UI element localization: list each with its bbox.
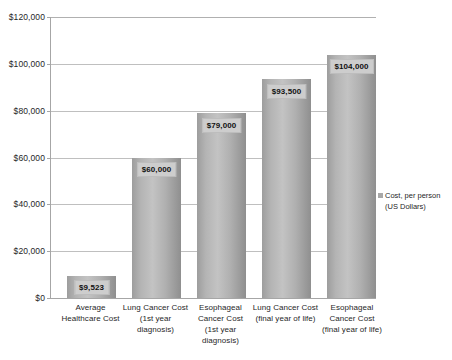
bar-esophageal-cancer-final-year[interactable]: [327, 55, 376, 299]
x-label-line: Lung Cancer Cost: [248, 302, 323, 313]
y-axis-label-100000: $100,000: [9, 59, 45, 69]
bar-esophageal-cancer-first-year[interactable]: [197, 113, 246, 298]
x-label-line: Cancer Cost: [313, 313, 391, 324]
y-axis-label-120000: $120,000: [9, 12, 45, 22]
x-label-line: (1st year: [187, 324, 254, 335]
plot-area: $120,000 $100,000 $80,000 $60,000 $40,00…: [50, 17, 376, 299]
legend-label-line1: Cost, per person: [385, 191, 440, 200]
x-label-line: (final year of life): [313, 324, 391, 335]
x-axis-label-lung-cancer-final-year: Lung Cancer Cost (final year of life): [248, 302, 323, 324]
tick-60000: [47, 158, 51, 159]
bar-lung-cancer-first-year[interactable]: [132, 158, 181, 299]
bar-slot-esophageal-cancer-final-year[interactable]: $104,000: [327, 17, 376, 298]
bar-slot-average-healthcare-cost[interactable]: $9,523: [67, 17, 116, 298]
x-label-line: diagnosis): [118, 324, 193, 335]
x-label-line: (final year of life): [248, 313, 323, 324]
bar-slot-lung-cancer-first-year[interactable]: $60,000: [132, 17, 181, 298]
bar-label-esophageal-cancer-final-year: $104,000: [329, 59, 373, 74]
x-label-line: Cancer Cost: [187, 313, 254, 324]
bar-slot-esophageal-cancer-first-year[interactable]: $79,000: [197, 17, 246, 298]
bar-label-average-healthcare-cost: $9,523: [74, 280, 109, 295]
bar-label-lung-cancer-final-year: $93,500: [267, 84, 307, 99]
legend-label-line2: (US Dollars): [385, 202, 452, 212]
y-axis-label-60000: $60,000: [14, 153, 45, 163]
x-label-line: Lung Cancer Cost: [118, 302, 193, 313]
legend-swatch-icon: [378, 193, 383, 198]
tick-40000: [47, 204, 51, 205]
y-axis-label-20000: $20,000: [14, 246, 45, 256]
tick-120000: [47, 17, 51, 18]
x-label-line: Healthcare Cost: [56, 313, 125, 324]
tick-100000: [47, 64, 51, 65]
x-axis-label-esophageal-cancer-first-year: Esophageal Cancer Cost (1st year diagnos…: [187, 302, 254, 346]
bar-label-lung-cancer-first-year: $60,000: [137, 162, 177, 177]
chart-legend[interactable]: Cost, per person (US Dollars): [378, 191, 452, 212]
x-label-line: Average: [56, 302, 125, 313]
x-axis-label-esophageal-cancer-final-year: Esophageal Cancer Cost (final year of li…: [313, 302, 391, 335]
cropped-caption: [8, 353, 448, 360]
tick-80000: [47, 111, 51, 112]
bars-layer: $9,523 $60,000 $79,000 $93,500 $104,000: [51, 17, 376, 298]
x-axis-label-lung-cancer-first-year: Lung Cancer Cost (1st year diagnosis): [118, 302, 193, 335]
bar-label-esophageal-cancer-first-year: $79,000: [202, 118, 242, 133]
x-axis-labels: Average Healthcare Cost Lung Cancer Cost…: [50, 302, 375, 354]
x-axis-label-average-healthcare-cost: Average Healthcare Cost: [56, 302, 125, 324]
x-label-line: Esophageal: [187, 302, 254, 313]
tick-20000: [47, 251, 51, 252]
x-label-line: (1st year: [118, 313, 193, 324]
tick-0: [47, 298, 51, 299]
x-label-line: Esophageal: [313, 302, 391, 313]
x-label-line: diagnosis): [187, 335, 254, 346]
bar-lung-cancer-final-year[interactable]: [262, 79, 311, 298]
y-axis-label-80000: $80,000: [14, 106, 45, 116]
y-axis-label-40000: $40,000: [14, 199, 45, 209]
bar-chart: $120,000 $100,000 $80,000 $60,000 $40,00…: [0, 0, 452, 360]
bar-slot-lung-cancer-final-year[interactable]: $93,500: [262, 17, 311, 298]
y-axis-label-0: $0: [35, 293, 45, 303]
